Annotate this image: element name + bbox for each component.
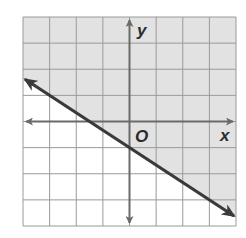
y-axis-label: y (136, 21, 148, 40)
inequality-graph: y x O (0, 0, 246, 238)
origin-label: O (135, 127, 148, 146)
x-axis-label: x (219, 126, 231, 145)
